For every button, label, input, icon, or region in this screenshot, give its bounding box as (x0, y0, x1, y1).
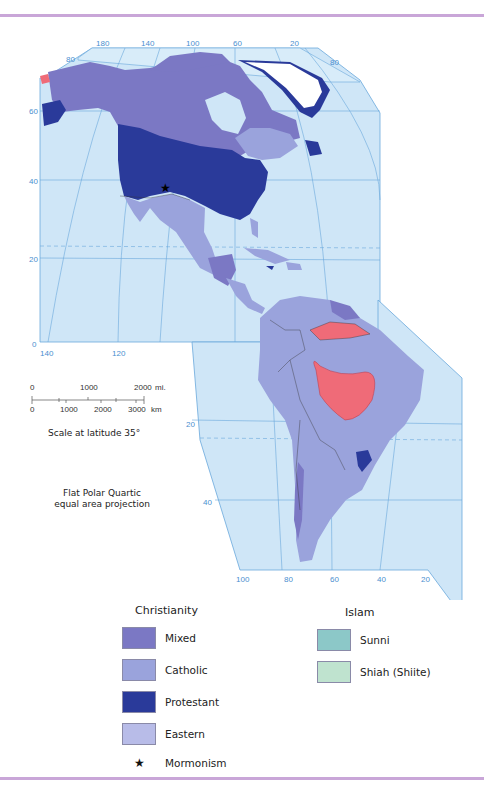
star-icon: ★ (122, 756, 156, 770)
swatch-protestant (122, 691, 156, 713)
legend-label-eastern: Eastern (165, 728, 205, 740)
scale-mi-unit: mi. (155, 383, 166, 392)
scale-km-0: 0 (30, 405, 34, 414)
svg-text:80: 80 (66, 55, 75, 64)
scale-mi-0: 0 (30, 383, 34, 392)
mormonism-star: ★ (160, 181, 171, 195)
scale-mi-2000: 2000 (134, 383, 152, 392)
projection-note: Flat Polar Quartic equal area projection (40, 488, 164, 510)
svg-text:20: 20 (421, 575, 430, 584)
legend-item-shiah: Shiah (Shiite) (317, 661, 431, 683)
legend-item-protestant: Protestant (122, 691, 219, 713)
legend-title-christianity: Christianity (135, 604, 198, 617)
svg-text:60: 60 (330, 575, 339, 584)
legend-item-eastern: Eastern (122, 723, 205, 745)
svg-text:20: 20 (290, 39, 299, 48)
scale-km-3000: 3000 (128, 405, 146, 414)
legend-label-sunni: Sunni (360, 634, 390, 646)
legend-item-sunni: Sunni (317, 629, 390, 651)
legend-title-islam: Islam (345, 606, 375, 619)
legend-label-protestant: Protestant (165, 696, 219, 708)
svg-text:100: 100 (236, 575, 250, 584)
projection-line-2: equal area projection (40, 499, 164, 510)
legend-label-mixed: Mixed (165, 632, 196, 644)
svg-text:20: 20 (186, 420, 195, 429)
svg-text:40: 40 (203, 498, 212, 507)
scale-caption: Scale at latitude 35° (48, 428, 140, 438)
svg-text:120: 120 (112, 349, 126, 358)
legend-item-mixed: Mixed (122, 627, 196, 649)
svg-text:80: 80 (284, 575, 293, 584)
svg-text:180: 180 (96, 39, 110, 48)
scale-mi-1000: 1000 (80, 383, 98, 392)
swatch-sunni (317, 629, 351, 651)
svg-text:0: 0 (32, 340, 37, 349)
projection-line-1: Flat Polar Quartic (40, 488, 164, 499)
religions-map-americas: ★ 180 140 100 60 20 80 60 40 20 0 80 140… (0, 0, 484, 600)
svg-text:20: 20 (29, 255, 38, 264)
legend-item-mormonism: ★ Mormonism (122, 756, 227, 770)
swatch-eastern (122, 723, 156, 745)
legend-label-catholic: Catholic (165, 664, 208, 676)
swatch-shiah (317, 661, 351, 683)
legend-label-shiah: Shiah (Shiite) (360, 666, 431, 678)
scale-bar (32, 396, 144, 404)
legend-item-catholic: Catholic (122, 659, 208, 681)
scale-km-unit: km (151, 405, 162, 414)
svg-text:140: 140 (141, 39, 155, 48)
scale-km-1000: 1000 (60, 405, 78, 414)
legend-label-mormonism: Mormonism (165, 757, 227, 769)
svg-text:140: 140 (40, 349, 54, 358)
scale-km-2000: 2000 (94, 405, 112, 414)
svg-text:100: 100 (186, 39, 200, 48)
svg-text:40: 40 (377, 575, 386, 584)
svg-text:40: 40 (29, 177, 38, 186)
bottom-divider (0, 777, 484, 780)
svg-text:60: 60 (29, 107, 38, 116)
svg-text:80: 80 (330, 58, 339, 67)
svg-text:60: 60 (233, 39, 242, 48)
swatch-mixed (122, 627, 156, 649)
swatch-catholic (122, 659, 156, 681)
